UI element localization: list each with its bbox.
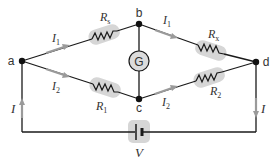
current-label-i1-left: I1 bbox=[51, 31, 60, 47]
node-label-a: a bbox=[8, 54, 15, 68]
galvanometer-label: G bbox=[134, 55, 143, 69]
resistor-label-rs: Rs bbox=[99, 10, 110, 26]
node-label-b: b bbox=[136, 6, 143, 20]
current-label-i1-right: I1 bbox=[162, 13, 171, 29]
resistor-label-rx: Rx bbox=[207, 27, 219, 43]
current-label-i2-left: I2 bbox=[51, 79, 60, 95]
resistor-label-r2: R2 bbox=[209, 84, 221, 100]
resistor-label-r1: R1 bbox=[95, 99, 107, 115]
galvanometer: G bbox=[129, 51, 149, 71]
node-label-c: c bbox=[136, 101, 142, 115]
current-label-i-right: I bbox=[260, 101, 266, 116]
current-label-i-left: I bbox=[10, 101, 16, 116]
current-label-i2-right: I2 bbox=[161, 95, 170, 111]
node-label-d: d bbox=[263, 55, 270, 69]
wheatstone-bridge-diagram: G V a b c d Rs R1 Rx R2 I1 I2 I1 I2 I I bbox=[0, 0, 276, 165]
battery-label: V bbox=[135, 145, 145, 160]
